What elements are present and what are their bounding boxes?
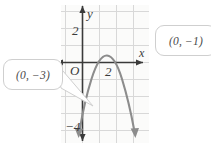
- y-axis-label: y: [85, 6, 93, 21]
- y-tick-minus4: −4: [65, 119, 81, 134]
- y-tick-2: 2: [72, 23, 79, 38]
- figure-root: y x O 2 2 −4 (0, −3) (0, −1): [0, 0, 211, 147]
- callout-box-0-minus-3[interactable]: (0, −3): [3, 59, 63, 90]
- x-tick-2: 2: [105, 64, 112, 79]
- callout-box-0-minus-1[interactable]: (0, −1): [155, 25, 211, 56]
- x-axis-label: x: [138, 46, 145, 60]
- callout-label-right: (0, −1): [169, 35, 203, 47]
- callout-label-left: (0, −3): [16, 69, 50, 81]
